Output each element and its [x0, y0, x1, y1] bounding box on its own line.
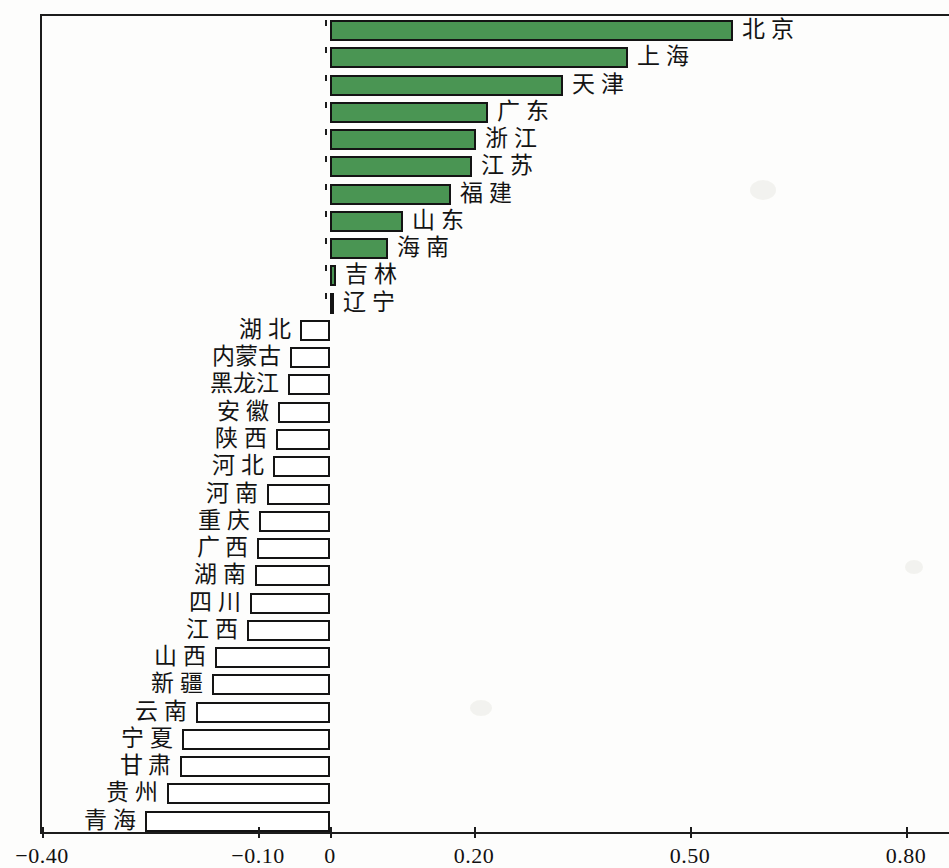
bar-row: 安 徽	[0, 402, 949, 423]
bar-category-label: 云 南	[135, 700, 187, 723]
bar-category-label: 山 西	[154, 645, 206, 668]
bar-negative	[167, 783, 330, 804]
bar-row: 新 疆	[0, 674, 949, 695]
x-axis-tick-label: 0.20	[454, 843, 495, 868]
bar-row: 重 庆	[0, 511, 949, 532]
bar-row: 陕 西	[0, 429, 949, 450]
bar-negative	[255, 565, 330, 586]
bar-category-label: 内蒙古	[212, 345, 281, 368]
bar-positive	[330, 102, 488, 123]
x-axis-tick-label: 0.80	[886, 843, 927, 868]
bar-negative	[290, 347, 330, 368]
x-axis-tick-label: −0.40	[15, 843, 68, 868]
bar-category-label: 安 徽	[217, 400, 269, 423]
bar-positive	[330, 293, 334, 314]
bar-row: 贵 州	[0, 783, 949, 804]
bar-positive	[330, 184, 451, 205]
bar-category-label: 上 海	[637, 45, 689, 68]
bar-row: 黑龙江	[0, 374, 949, 395]
bar-category-label: 广 西	[197, 536, 249, 559]
bar-chart: 北 京上 海天 津广 东浙 江江 苏福 建山 东海 南吉 林辽 宁湖 北内蒙古黑…	[0, 0, 949, 868]
bar-category-label: 浙 江	[485, 127, 537, 150]
bar-negative	[273, 456, 330, 477]
bar-row: 北 京	[0, 20, 949, 41]
bar-negative	[250, 593, 330, 614]
bar-category-label: 海 南	[397, 236, 449, 259]
row-axis-tick	[325, 211, 327, 217]
row-axis-tick	[325, 293, 327, 299]
row-axis-tick	[325, 47, 327, 53]
bar-category-label: 陕 西	[215, 427, 267, 450]
bar-row: 宁 夏	[0, 729, 949, 750]
bar-row: 江 西	[0, 620, 949, 641]
bar-positive	[330, 20, 733, 41]
bar-category-label: 辽 宁	[343, 291, 395, 314]
bar-negative	[267, 484, 330, 505]
bar-negative	[300, 320, 330, 341]
scan-speck	[905, 560, 923, 574]
bar-negative	[196, 702, 330, 723]
bar-row: 四 川	[0, 593, 949, 614]
row-axis-tick	[325, 102, 327, 108]
bar-row: 天 津	[0, 75, 949, 96]
bar-row: 山 东	[0, 211, 949, 232]
bar-positive	[330, 129, 476, 150]
bar-row: 山 西	[0, 647, 949, 668]
bar-category-label: 福 建	[460, 182, 512, 205]
bar-row: 浙 江	[0, 129, 949, 150]
bar-row: 福 建	[0, 184, 949, 205]
x-axis-tick-label: −0.10	[231, 843, 284, 868]
x-axis-tick-label: 0.50	[670, 843, 711, 868]
bar-category-label: 天 津	[572, 73, 624, 96]
bar-negative	[276, 429, 330, 450]
bar-category-label: 广 东	[497, 100, 549, 123]
row-axis-tick	[325, 184, 327, 190]
x-axis-tick	[906, 827, 908, 838]
bar-negative	[278, 402, 330, 423]
bar-category-label: 四 川	[189, 591, 241, 614]
scan-speck	[750, 180, 776, 200]
bar-positive	[330, 75, 563, 96]
bar-row: 甘 肃	[0, 756, 949, 777]
bar-negative	[259, 511, 330, 532]
bar-row: 上 海	[0, 47, 949, 68]
bar-category-label: 北 京	[742, 18, 794, 41]
bar-category-label: 宁 夏	[121, 727, 173, 750]
bar-category-label: 山 东	[412, 209, 464, 232]
row-axis-tick	[325, 156, 327, 162]
bar-negative	[288, 374, 330, 395]
bar-negative	[212, 674, 330, 695]
bar-category-label: 新 疆	[151, 672, 203, 695]
bar-category-label: 黑龙江	[210, 372, 279, 395]
bar-row: 河 南	[0, 484, 949, 505]
bar-row: 河 北	[0, 456, 949, 477]
x-axis-tick	[690, 827, 692, 838]
bar-negative	[257, 538, 330, 559]
row-axis-tick	[325, 20, 327, 26]
bar-row: 吉 林	[0, 265, 949, 286]
bar-category-label: 湖 南	[194, 563, 246, 586]
row-axis-tick	[325, 129, 327, 135]
x-axis-tick	[258, 827, 260, 838]
bar-category-label: 青 海	[84, 809, 136, 832]
bar-positive	[330, 238, 388, 259]
bar-category-label: 江 苏	[481, 154, 533, 177]
bar-negative	[215, 647, 330, 668]
x-axis-tick	[330, 827, 332, 838]
bar-positive	[330, 211, 403, 232]
x-axis-tick	[42, 827, 44, 838]
bar-positive	[330, 47, 628, 68]
bar-category-label: 甘 肃	[120, 754, 172, 777]
bar-positive	[330, 156, 472, 177]
row-axis-tick	[325, 265, 327, 271]
bar-category-label: 重 庆	[198, 509, 250, 532]
bar-negative	[180, 756, 330, 777]
x-axis-tick-label: 0	[324, 843, 336, 868]
bar-category-label: 河 南	[206, 482, 258, 505]
bar-row: 广 东	[0, 102, 949, 123]
bar-category-label: 河 北	[212, 454, 264, 477]
x-axis-tick	[474, 827, 476, 838]
bar-row: 湖 北	[0, 320, 949, 341]
bar-row: 内蒙古	[0, 347, 949, 368]
bar-negative	[247, 620, 330, 641]
